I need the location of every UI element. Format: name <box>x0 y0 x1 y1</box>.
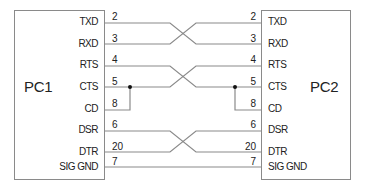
wire-pc2-cts-cd-jumper <box>235 87 261 110</box>
wire-rxd-to-txd <box>105 23 261 44</box>
wire-cts-to-rts <box>105 66 261 87</box>
null-modem-wiring-diagram: PC1 PC2 TXD RXD RTS CTS CD DSR DTR SIG G… <box>0 0 366 190</box>
wire-pc1-cts-cd-jumper <box>105 87 130 110</box>
pc1-junction-dot <box>128 85 132 89</box>
pc2-junction-dot <box>233 85 237 89</box>
wire-dtr-to-dsr <box>105 131 261 152</box>
wiring-lines <box>0 0 366 190</box>
